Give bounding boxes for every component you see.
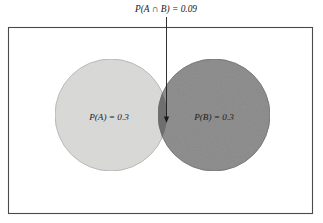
- venn-diagram-figure: P(A ∩ B) = 0.09 P(A) = 0.3 P(B) = 0.3: [0, 0, 323, 223]
- venn-diagram-canvas: P(A ∩ B) = 0.09 P(A) = 0.3 P(B) = 0.3: [0, 0, 323, 223]
- intersection-probability-label: P(A ∩ B) = 0.09: [134, 4, 197, 15]
- event-a-probability-label: P(A) = 0.3: [88, 112, 129, 122]
- event-b-probability-label: P(B) = 0.3: [193, 112, 234, 122]
